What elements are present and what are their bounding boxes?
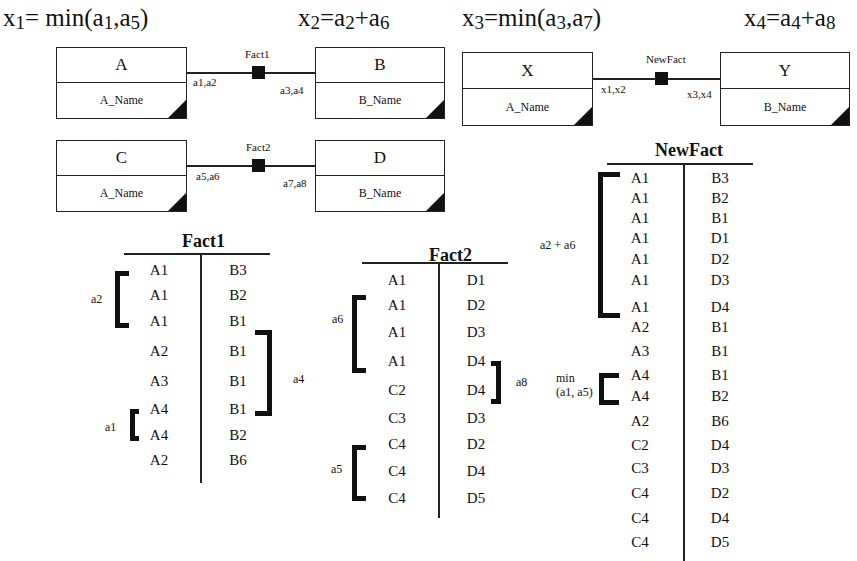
table-cell-value: B6 — [218, 452, 258, 469]
entity-attribute: A_Name — [100, 93, 143, 108]
table-cell-key: C4 — [620, 510, 660, 527]
table-cell-key: C2 — [620, 437, 660, 454]
bracket-label: a1 — [105, 420, 116, 435]
entity-b[interactable]: B B_Name — [315, 47, 445, 119]
table-cell-key: A1 — [139, 262, 179, 279]
table-cell-key: A3 — [139, 373, 179, 390]
entity-name: A — [57, 48, 186, 83]
table-cell-key: C3 — [377, 410, 417, 427]
bracket-label: a2 — [91, 292, 102, 307]
table-cell-key: A1 — [377, 297, 417, 314]
fact-label: Fact1 — [245, 48, 269, 60]
bracket-label: min (a1, a5) — [556, 371, 593, 399]
table-cell-value: B1 — [700, 367, 740, 384]
table-cell-value: D4 — [700, 437, 740, 454]
fact-node-icon[interactable] — [252, 159, 265, 172]
table-cell-value: D3 — [700, 460, 740, 477]
corner-marker-icon — [831, 107, 849, 125]
entity-x[interactable]: X A_Name — [462, 52, 593, 126]
table-cell-key: C4 — [377, 436, 417, 453]
table-cell-value: B1 — [218, 343, 258, 360]
table-cell-value: D5 — [700, 534, 740, 551]
table-cell-key: A1 — [620, 170, 660, 187]
table-cell-key: C4 — [620, 485, 660, 502]
bracket-label: a8 — [516, 375, 527, 390]
relationship-line — [187, 165, 315, 167]
table-cell-key: A4 — [620, 367, 660, 384]
table-cell-key: C2 — [377, 382, 417, 399]
fact-label: Fact2 — [246, 141, 270, 153]
bracket-a6 — [352, 295, 366, 373]
formula-x4: x4=a4+a8 — [744, 4, 835, 34]
entity-d[interactable]: D B_Name — [315, 140, 445, 212]
table-cell-key: C3 — [620, 460, 660, 477]
entity-name: D — [316, 141, 444, 176]
bracket-min-a1-a5 — [599, 373, 619, 405]
table-cell-value: D3 — [700, 272, 740, 289]
relationship-line — [187, 72, 315, 74]
entity-c[interactable]: C A_Name — [56, 140, 187, 212]
table-cell-key: A1 — [620, 251, 660, 268]
role-label-left: a1,a2 — [193, 76, 217, 88]
bracket-a2 — [115, 271, 129, 328]
bracket-a8 — [491, 361, 501, 404]
table-column-divider — [438, 262, 440, 518]
entity-name: B — [316, 48, 444, 83]
table-cell-key: A1 — [620, 210, 660, 227]
table-cell-value: B2 — [218, 287, 258, 304]
bracket-label: a2 + a6 — [540, 238, 575, 253]
table-cell-value: B1 — [218, 373, 258, 390]
entity-name: Y — [721, 53, 849, 89]
table-cell-key: A1 — [139, 287, 179, 304]
table-cell-key: C4 — [377, 463, 417, 480]
entity-attribute: A_Name — [100, 186, 143, 201]
table-cell-key: A1 — [620, 272, 660, 289]
bracket-label: a5 — [331, 462, 342, 477]
table-cell-key: A1 — [139, 313, 179, 330]
role-label-right: x3,x4 — [687, 88, 712, 100]
table-cell-key: C4 — [377, 490, 417, 507]
entity-attribute: B_Name — [359, 93, 402, 108]
entity-a[interactable]: A A_Name — [56, 47, 187, 119]
table-cell-value: D4 — [700, 299, 740, 316]
table-cell-value: B1 — [218, 313, 258, 330]
table-cell-value: B1 — [700, 210, 740, 227]
table-cell-value: D4 — [456, 382, 496, 399]
table-cell-key: A2 — [620, 413, 660, 430]
table-column-divider — [200, 253, 202, 483]
table-title-newfact: NewFact — [655, 140, 723, 161]
table-cell-value: D2 — [456, 297, 496, 314]
corner-marker-icon — [168, 193, 186, 211]
corner-marker-icon — [168, 100, 186, 118]
table-cell-value: B3 — [700, 170, 740, 187]
table-cell-value: B1 — [700, 343, 740, 360]
formula-x1: x1= min(a1,a5) — [3, 4, 148, 34]
table-cell-value: D4 — [700, 510, 740, 527]
bracket-a1 — [130, 409, 139, 441]
bracket-a5 — [352, 445, 366, 501]
table-cell-value: B2 — [700, 388, 740, 405]
table-cell-key: A4 — [139, 401, 179, 418]
fact-node-icon[interactable] — [655, 72, 668, 85]
table-cell-value: B2 — [218, 427, 258, 444]
table-header-rule — [124, 253, 270, 255]
table-cell-value: B3 — [218, 262, 258, 279]
entity-name: X — [463, 53, 592, 89]
table-cell-key: A1 — [377, 272, 417, 289]
table-cell-key: A1 — [620, 190, 660, 207]
role-label-left: x1,x2 — [601, 83, 626, 95]
fact-node-icon[interactable] — [252, 66, 265, 79]
table-cell-key: A1 — [620, 230, 660, 247]
corner-marker-icon — [574, 107, 592, 125]
formula-x2: x2=a2+a6 — [298, 4, 389, 34]
table-cell-value: D2 — [700, 251, 740, 268]
table-cell-key: A2 — [620, 319, 660, 336]
table-cell-value: D2 — [700, 485, 740, 502]
table-cell-value: D4 — [456, 463, 496, 480]
table-cell-value: B6 — [700, 413, 740, 430]
entity-attribute: B_Name — [764, 100, 807, 115]
entity-y[interactable]: Y B_Name — [720, 52, 850, 126]
table-cell-value: D4 — [456, 353, 496, 370]
entity-name: C — [57, 141, 186, 176]
role-label-left: a5,a6 — [196, 170, 220, 182]
